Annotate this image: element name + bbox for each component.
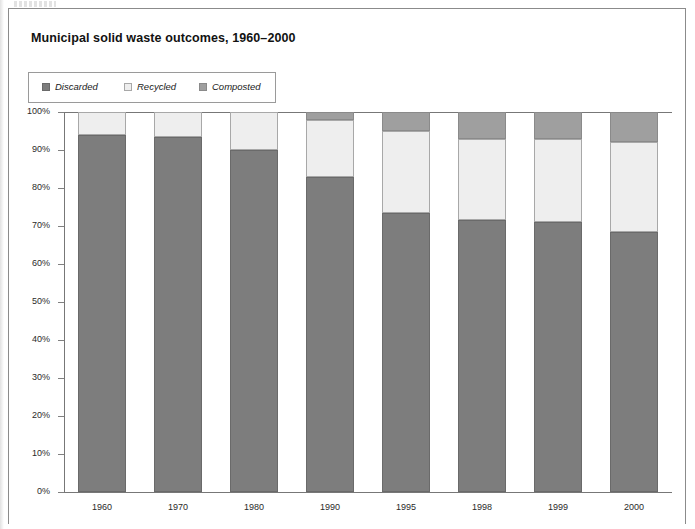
legend-item-composted: Composted bbox=[199, 81, 261, 92]
page-edge-shadow bbox=[0, 0, 4, 529]
legend-item-recycled: Recycled bbox=[124, 81, 176, 92]
legend-swatch-recycled-icon bbox=[124, 83, 132, 91]
legend-label-discarded: Discarded bbox=[55, 81, 98, 92]
legend-label-recycled: Recycled bbox=[137, 81, 176, 92]
legend-label-composted: Composted bbox=[212, 81, 261, 92]
legend-swatch-composted-icon bbox=[199, 83, 207, 91]
chart-title: Municipal solid waste outcomes, 1960–200… bbox=[31, 31, 296, 45]
legend-item-discarded: Discarded bbox=[42, 81, 98, 92]
chart-legend: Discarded Recycled Composted bbox=[28, 72, 276, 103]
scan-artifact bbox=[14, 1, 56, 7]
legend-swatch-discarded-icon bbox=[42, 83, 50, 91]
figure-frame: Municipal solid waste outcomes, 1960–200… bbox=[8, 8, 686, 524]
